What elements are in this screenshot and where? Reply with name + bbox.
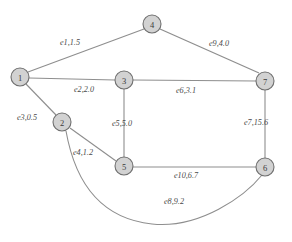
edge-e2-1-3 — [29, 78, 115, 80]
edge-label-e6: e6,3.1 — [176, 86, 196, 95]
node-1[interactable]: 1 — [11, 68, 29, 86]
edge-label-e7: e7,15.6 — [244, 118, 269, 127]
node-5[interactable]: 5 — [115, 157, 133, 175]
node-2-label: 2 — [60, 118, 64, 128]
graph-diagram: 1 2 3 4 5 6 7 — [0, 0, 292, 242]
graph-canvas: 1 2 3 4 5 6 7 — [0, 0, 292, 242]
edge-label-e1: e1,1.5 — [60, 38, 80, 47]
node-2[interactable]: 2 — [53, 113, 71, 131]
edge-label-e3: e3,0.5 — [17, 113, 37, 122]
node-3-label: 3 — [122, 76, 126, 86]
node-3[interactable]: 3 — [115, 71, 133, 89]
node-6-label: 6 — [263, 163, 267, 173]
edge-label-e10: e10,6.7 — [174, 171, 199, 180]
node-1-label: 1 — [18, 73, 22, 83]
node-4[interactable]: 4 — [143, 15, 161, 33]
edge-e9-4-7 — [160, 29, 259, 73]
edge-label-e2: e2,2.0 — [74, 85, 94, 94]
node-5-label: 5 — [122, 162, 126, 172]
node-7-label: 7 — [263, 77, 267, 87]
node-7[interactable]: 7 — [256, 72, 274, 90]
edge-e6-3-7 — [133, 80, 256, 81]
edge-label-e9: e9,4.0 — [209, 39, 229, 48]
edge-e8-2-6 — [66, 131, 262, 225]
edge-e1-1-4 — [28, 29, 144, 72]
edge-label-e8: e8,9.2 — [164, 197, 184, 206]
node-layer: 1 2 3 4 5 6 7 — [11, 15, 274, 176]
node-6[interactable]: 6 — [256, 158, 274, 176]
edge-label-e5: e5,5.0 — [112, 119, 132, 128]
edge-e3-1-2 — [26, 84, 56, 115]
edge-label-e4: e4,1.2 — [73, 148, 93, 157]
